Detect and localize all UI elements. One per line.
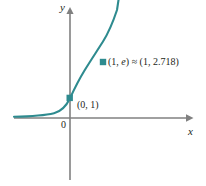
data-point-marker-e xyxy=(100,59,106,65)
x-axis-arrowhead xyxy=(186,114,194,122)
data-point-marker-origin xyxy=(67,95,73,101)
axis-label-x: x xyxy=(188,126,193,137)
exponential-function-figure: y x 0 (0, 1) (1, e) ≈ (1, 2.718) xyxy=(0,0,206,186)
y-axis-arrowhead xyxy=(66,7,73,14)
axis-label-y: y xyxy=(60,2,65,13)
point-label-e-prefix: (1, xyxy=(108,56,121,67)
point-label-origin: (0, 1) xyxy=(77,100,99,110)
exponential-curve xyxy=(14,0,119,117)
origin-label: 0 xyxy=(61,120,66,130)
point-label-e: (1, e) ≈ (1, 2.718) xyxy=(108,57,179,67)
point-label-e-suffix: ) ≈ (1, 2.718) xyxy=(126,56,179,67)
plot-canvas xyxy=(0,0,206,186)
